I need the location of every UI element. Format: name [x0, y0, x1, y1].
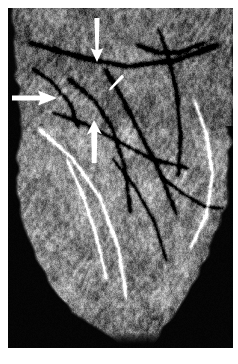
scan-image-plate	[8, 8, 233, 348]
figure-root	[0, 0, 238, 364]
volume-rendered-heart-image	[8, 8, 233, 348]
